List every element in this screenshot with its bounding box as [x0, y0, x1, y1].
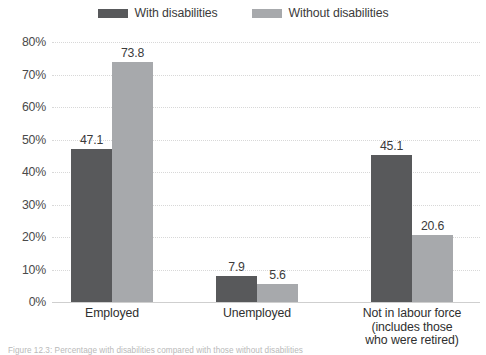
figure-caption: Figure 12.3: Percentage with disabilitie…: [8, 346, 486, 355]
legend-entry-with-disabilities: With disabilities: [98, 6, 218, 20]
bar-employed-without-disabilities[interactable]: [112, 62, 153, 302]
legend-label: With disabilities: [135, 6, 218, 20]
x-axis-label-employed: Employed: [32, 307, 192, 321]
bar-value-label: 5.6: [248, 268, 308, 282]
bar-employed-with-disabilities[interactable]: [71, 149, 112, 302]
plot-area: 0%10%20%30%40%50%60%70%80% 47.17.945.173…: [0, 30, 486, 305]
x-axis-label-unemployed: Unemployed: [177, 307, 337, 321]
bar-value-label: 45.1: [362, 139, 422, 153]
bar-value-label: 20.6: [403, 219, 463, 233]
x-axis-label-line: Employed: [32, 307, 192, 321]
x-axis-label-not-in-labour-force-includes-those-who-were-retired: Not in labour force(includes thosewho we…: [332, 307, 486, 348]
bar-value-label: 73.8: [103, 46, 163, 60]
x-axis-label-line: Unemployed: [177, 307, 337, 321]
bar-series-container: 47.17.945.173.85.620.6: [0, 30, 486, 305]
bar-unemployed-without-disabilities[interactable]: [257, 284, 298, 302]
legend-label: Without disabilities: [289, 6, 389, 20]
legend-swatch-icon: [252, 9, 282, 18]
x-axis-label-line: Not in labour force: [332, 307, 486, 321]
bar-not-in-labour-force-includes-those-who-were-retired-without-disabilities[interactable]: [412, 235, 453, 302]
chart-legend: With disabilitiesWithout disabilities: [0, 6, 486, 20]
x-axis-label-line: (includes those: [332, 321, 486, 335]
legend-entry-without-disabilities: Without disabilities: [252, 6, 389, 20]
x-axis-category-labels: EmployedUnemployedNot in labour force(in…: [0, 307, 486, 351]
legend-swatch-icon: [98, 9, 128, 18]
